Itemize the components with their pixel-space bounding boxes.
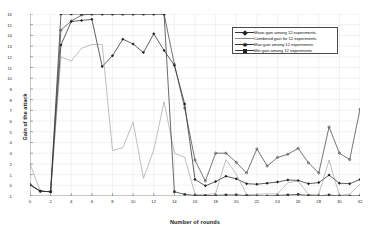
- legend-label: Max gain among 12 experiments: [254, 42, 313, 47]
- y-tick-label: 14: [0, 33, 12, 38]
- x-tick-label: 6: [91, 199, 93, 204]
- x-tick-label: 14: [172, 199, 177, 204]
- y-tick-label: 4: [0, 140, 12, 145]
- y-tick-label: 12: [0, 54, 12, 59]
- x-tick-label: 32: [358, 199, 363, 204]
- y-tick-label: 8: [0, 97, 12, 102]
- x-axis-label: Number of rounds: [30, 219, 360, 225]
- x-tick-label: 0: [29, 199, 31, 204]
- x-tick-label: 22: [254, 199, 259, 204]
- y-tick-label: 1: [0, 172, 12, 177]
- y-axis-label: Gain of the attack: [22, 93, 28, 140]
- legend-label: Combined gain for 12 experiments: [254, 36, 316, 41]
- y-tick-label: 15: [0, 22, 12, 27]
- y-tick-label: 2: [0, 161, 12, 166]
- x-tick-label: 2: [49, 199, 51, 204]
- x-tick-label: 26: [296, 199, 301, 204]
- y-tick-label: 11: [0, 65, 12, 70]
- x-tick-label: 12: [151, 199, 156, 204]
- x-tick-label: 16: [193, 199, 198, 204]
- legend-label: Min gain among 12 experiments: [254, 48, 312, 53]
- chart-figure: Gain of the attack Number of rounds -101…: [0, 0, 375, 234]
- y-tick-label: 9: [0, 86, 12, 91]
- y-tick-label: 6: [0, 119, 12, 124]
- y-tick-label: 5: [0, 129, 12, 134]
- legend-marker-square-icon: [235, 48, 254, 54]
- legend-label: Mean gain among 12 experiments: [254, 30, 316, 35]
- y-tick-label: 16: [0, 12, 12, 17]
- y-tick-label: 7: [0, 108, 12, 113]
- x-tick-label: 30: [337, 199, 342, 204]
- chart-legend: Mean gain among 12 experiments Combined …: [232, 27, 338, 54]
- x-tick-label: 8: [111, 199, 113, 204]
- legend-item: Min gain among 12 experiments: [235, 48, 335, 54]
- y-tick-label: 13: [0, 44, 12, 49]
- y-tick-label: 0: [0, 183, 12, 188]
- x-tick-label: 4: [70, 199, 72, 204]
- x-tick-label: 28: [316, 199, 321, 204]
- x-tick-label: 18: [213, 199, 218, 204]
- x-tick-label: 24: [275, 199, 280, 204]
- y-tick-label: 10: [0, 76, 12, 81]
- y-tick-label: -1: [0, 194, 12, 199]
- x-tick-label: 10: [131, 199, 136, 204]
- x-tick-label: 20: [234, 199, 239, 204]
- y-tick-label: 3: [0, 151, 12, 156]
